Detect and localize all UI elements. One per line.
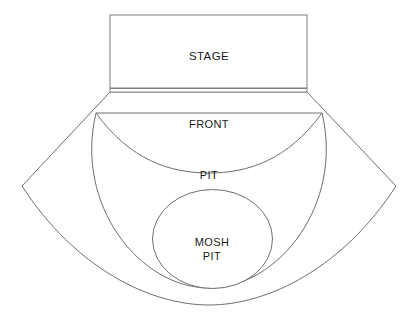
zone-label-front: FRONT bbox=[189, 118, 229, 130]
venue-seating-chart: STAGE FRONT PIT MOSH PIT bbox=[0, 0, 418, 321]
zone-label-mosh-pit-line-2: PIT bbox=[203, 250, 221, 262]
zone-label-stage: STAGE bbox=[189, 50, 229, 62]
stage-barrier-strip bbox=[110, 89, 307, 93]
zone-label-mosh-pit-line-1: MOSH bbox=[195, 236, 230, 248]
zone-label-pit: PIT bbox=[200, 169, 218, 181]
